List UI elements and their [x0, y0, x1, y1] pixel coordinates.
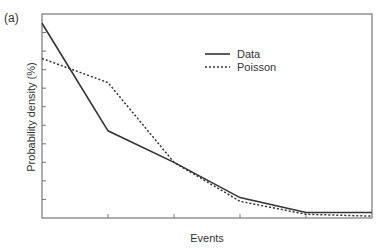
series-line-poisson — [42, 59, 372, 217]
x-axis-label: Events — [190, 232, 224, 244]
y-axis-label: Probability density (%) — [25, 62, 37, 171]
legend: Data Poisson — [205, 48, 276, 73]
legend-label-poisson: Poisson — [237, 61, 276, 73]
chart: (a) Data Poisson Events Probability dens… — [0, 0, 385, 250]
panel-label: (a) — [4, 11, 19, 25]
series-lines — [42, 23, 372, 216]
plot-frame — [42, 14, 372, 218]
series-line-data — [42, 23, 372, 212]
axes — [42, 14, 372, 218]
legend-label-data: Data — [237, 48, 261, 60]
